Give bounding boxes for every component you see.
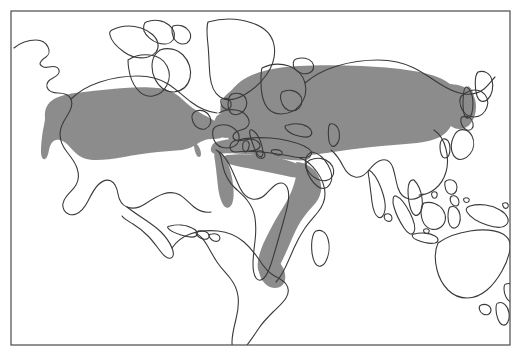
world-map-svg	[0, 0, 520, 358]
distribution-map-figure: Distribution range Outside range	[0, 0, 520, 358]
